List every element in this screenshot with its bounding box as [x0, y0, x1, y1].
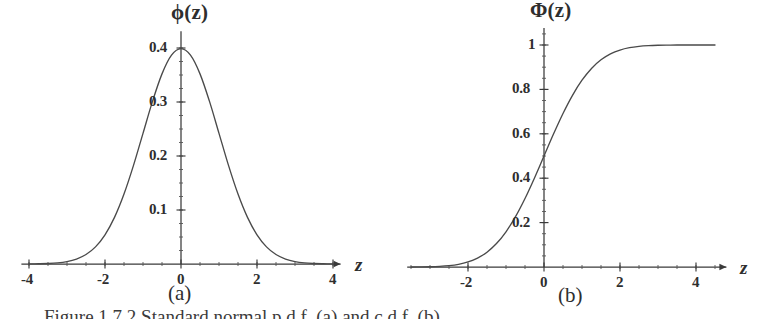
plot-a-xtick-4: 4	[329, 272, 336, 287]
plot-b-ytick-2: 0.6	[512, 126, 530, 141]
plot-b-ytick-3: 0.8	[512, 81, 530, 96]
plot-b-title: Φ(z)	[530, 0, 572, 21]
plot-a-xtick-1: -2	[97, 272, 109, 287]
plot-a-xtick-3: 2	[253, 272, 260, 287]
plot-b-ytick-1: 0.4	[512, 170, 530, 185]
plot-a-xaxis-title: z	[355, 255, 362, 274]
plot-a-xtick-2: 0	[177, 272, 184, 287]
figure-caption: Figure 1.7.2 Standard normal p.d.f. (a) …	[44, 306, 444, 319]
plot-b-xaxis-title: z	[740, 258, 747, 277]
plot-a-ytick-2: 0.3	[149, 94, 167, 109]
plot-a-ytick-3: 0.4	[149, 40, 167, 55]
figure-container: ϕ(z) z (a) -4-20240.10.20.30.4 Φ(z) z (b…	[0, 0, 779, 319]
plot-a-xtick-0: -4	[21, 272, 33, 287]
plot-b-canvas	[390, 0, 779, 319]
plot-a-ytick-1: 0.2	[149, 148, 167, 163]
plot-b-sublabel: (b)	[558, 285, 583, 306]
plot-a-title: ϕ(z)	[171, 2, 208, 23]
plot-b-ytick-0: 0.2	[512, 215, 530, 230]
plot-panel-b: Φ(z) z (b) -20240.20.40.60.81	[390, 0, 779, 319]
plot-a-ytick-0: 0.1	[149, 202, 167, 217]
plot-b-xtick-0: -2	[460, 275, 472, 290]
plot-b-xtick-1: 0	[540, 275, 547, 290]
plot-panel-a: ϕ(z) z (a) -4-20240.10.20.30.4	[0, 0, 390, 319]
plot-b-xtick-2: 2	[616, 275, 623, 290]
plot-b-curve	[411, 45, 715, 267]
plot-b-ytick-4: 1	[528, 37, 535, 52]
plot-b-xtick-3: 4	[692, 275, 699, 290]
